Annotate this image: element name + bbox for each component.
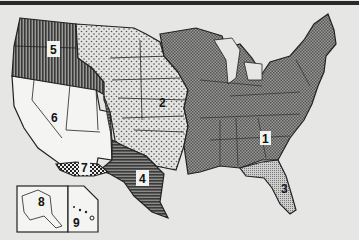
svg-text:6: 6: [51, 111, 58, 125]
svg-text:9: 9: [73, 216, 80, 230]
region-label-6: 6: [51, 111, 58, 125]
us-regions-map: 1 2 3 4 5 6 7 8 9: [0, 0, 359, 240]
svg-text:4: 4: [139, 172, 146, 186]
region-label-4: 4: [136, 170, 149, 186]
svg-text:1: 1: [262, 132, 269, 146]
region-label-7: 7: [79, 160, 90, 175]
region-label-1: 1: [260, 131, 271, 146]
svg-text:7: 7: [81, 161, 88, 175]
region-label-9: 9: [73, 216, 80, 230]
svg-text:3: 3: [281, 182, 288, 196]
region-label-3: 3: [281, 182, 288, 196]
svg-text:8: 8: [38, 195, 45, 209]
alaska-inset: [17, 186, 68, 232]
svg-text:2: 2: [159, 96, 166, 110]
svg-text:5: 5: [50, 43, 57, 57]
region-label-2: 2: [159, 96, 166, 110]
map-svg: 1 2 3 4 5 6 7 8 9: [0, 0, 359, 240]
region-label-5: 5: [47, 41, 60, 57]
region-label-8: 8: [38, 195, 45, 209]
